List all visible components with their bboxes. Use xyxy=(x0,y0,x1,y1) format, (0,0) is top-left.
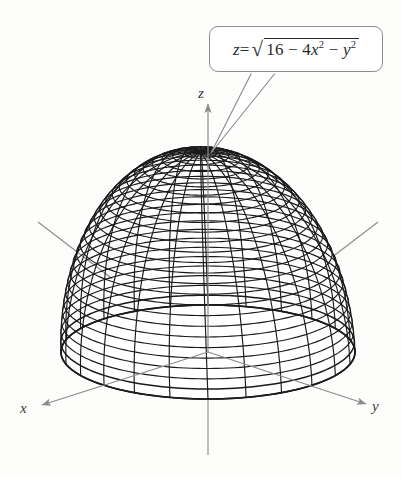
figure-container: z=√16 − 4x2 − y2 x y z xyxy=(0,0,402,477)
axis-label-x: x xyxy=(20,400,27,417)
radicand-term: − xyxy=(324,39,343,58)
radicand: 16 − 4x2 − y2 xyxy=(264,38,359,60)
radical-expression: √16 − 4x2 − y2 xyxy=(250,38,360,61)
axis-label-z: z xyxy=(198,85,204,102)
equation-text: z=√16 − 4x2 − y2 xyxy=(233,38,359,61)
radicand-term: − 4 xyxy=(284,39,311,58)
radicand-term: y xyxy=(343,39,351,58)
radicand-term: 16 xyxy=(266,39,283,58)
radicand-term: x xyxy=(311,39,319,58)
callout-pointer xyxy=(211,72,288,153)
equation-callout-box: z=√16 − 4x2 − y2 xyxy=(209,26,383,72)
equation-equals: = xyxy=(240,39,250,58)
apex-convergence xyxy=(194,149,208,155)
exponent: 2 xyxy=(351,39,356,50)
equation-lhs: z xyxy=(233,39,240,58)
axis-label-y: y xyxy=(372,398,379,415)
radical-sign-icon: √ xyxy=(252,39,264,60)
